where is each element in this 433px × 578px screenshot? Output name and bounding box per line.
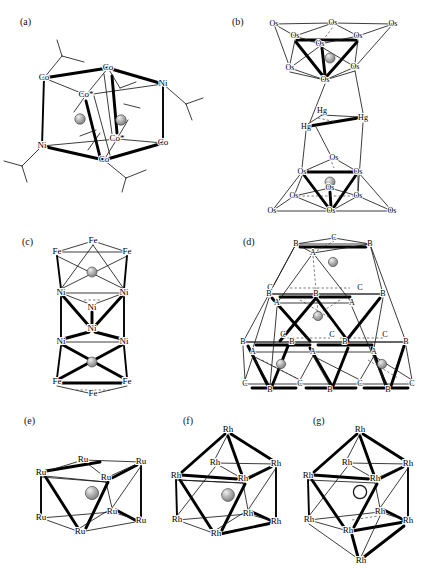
atom-label-b-13: Os	[298, 167, 307, 176]
atom-label-f-2: Rh	[271, 458, 282, 468]
atom-label-g-6: Rh	[304, 514, 315, 524]
atom-label-a-0: Co	[39, 72, 50, 82]
atom-label-a-1: Co	[103, 62, 114, 72]
atom-label-b-6: Os	[286, 63, 295, 72]
atom-label-d-18: A	[250, 347, 256, 356]
atom-label-b-14: Os	[354, 167, 363, 176]
atom-label-d-19: A	[310, 347, 316, 356]
atom-label-d-21: C	[242, 379, 247, 388]
atom-label-d-0: C	[331, 233, 336, 242]
atom-label-e-4: Ru	[107, 506, 118, 516]
atom-label-d-1: B	[293, 239, 298, 248]
atom-label-a-7: Co*	[109, 133, 125, 143]
atom-label-a-6: Co*	[78, 89, 94, 99]
atom-label-b-20: Os	[388, 206, 397, 215]
atom-label-b-15: Os	[326, 183, 335, 192]
interstitial-atom-a-1	[116, 115, 126, 125]
atom-label-g-7: Rh	[403, 515, 414, 525]
panel-c-bonds	[57, 241, 127, 394]
atom-label-c-4: Ni	[120, 287, 129, 297]
atom-label-f-3: Rh	[171, 470, 182, 480]
atom-label-e-7: Ru	[75, 526, 86, 536]
interstitial-atom-b-0	[325, 53, 335, 63]
atom-label-c-8: Ni	[120, 336, 129, 346]
panel-f-spheres	[222, 489, 235, 502]
atom-label-b-16: Os	[290, 191, 299, 200]
atom-label-d-16: B	[342, 337, 347, 346]
atom-label-e-2: Ru	[36, 467, 47, 477]
interstitial-atom-f-0	[222, 489, 235, 502]
atom-label-d-27: B	[385, 385, 390, 394]
atom-label-g-8: Rh	[343, 525, 354, 535]
atom-label-d-24: C	[409, 379, 414, 388]
atom-label-g-4: Rh	[370, 473, 381, 483]
atom-label-e-0: Ru	[78, 454, 89, 464]
atom-label-f-1: Rh	[210, 457, 221, 467]
interstitial-atom-e-0	[85, 486, 98, 499]
atom-label-c-1: Fe	[53, 246, 62, 256]
atom-label-d-20: A	[371, 347, 377, 356]
interstitial-atom-c-0	[87, 267, 97, 277]
atom-label-c-10: Fe	[123, 376, 132, 386]
atom-label-f-8: Rh	[211, 528, 222, 538]
atom-label-d-14: B	[240, 337, 245, 346]
panel-b-labels: OsOsOsOsOsOsOsOsOsHgHgHgOsOsOsOsOsOsOsOs…	[268, 18, 398, 215]
atom-label-d-3: A	[310, 248, 316, 257]
panel-f-bonds	[176, 434, 276, 534]
atom-label-b-7: Os	[351, 62, 360, 71]
atom-label-a-4: Co	[99, 154, 110, 164]
atom-label-d-13: C	[382, 330, 387, 339]
atom-label-g-1: Rh	[342, 457, 353, 467]
panel-g-labels: RhRhRhRhRhRhRhRhRhRh	[303, 424, 414, 565]
atom-label-c-6: Ni	[88, 323, 97, 333]
atom-label-b-19: Os	[327, 206, 336, 215]
interstitial-atom-d-1	[313, 311, 322, 320]
atom-label-c-0: Fe	[89, 235, 98, 245]
atom-label-c-11: Fe	[89, 388, 98, 398]
interstitial-atom-g-0	[353, 485, 366, 498]
atom-label-c-5: Ni	[88, 302, 97, 312]
atom-label-e-3: Ru	[101, 472, 112, 482]
atom-label-d-23: C	[357, 379, 362, 388]
atom-label-d-6: B	[266, 289, 271, 298]
atom-label-b-10: Hg	[301, 122, 311, 131]
atom-label-b-18: Os	[268, 206, 277, 215]
panel-tag-d: (d)	[243, 236, 255, 247]
atom-label-g-0: Rh	[355, 424, 366, 434]
atom-label-d-5: C	[357, 283, 362, 292]
interstitial-atom-d-0	[328, 257, 337, 266]
panel-tag-e: (e)	[24, 415, 35, 426]
atom-label-f-7: Rh	[271, 516, 282, 526]
atom-label-b-9: Hg	[317, 106, 327, 115]
atom-label-f-0: Rh	[223, 424, 234, 434]
panel-tag-c: (c)	[22, 236, 33, 247]
atom-label-b-17: Os	[354, 191, 363, 200]
panel-tag-b: (b)	[232, 16, 244, 27]
atom-label-d-12: C	[329, 330, 334, 339]
interstitial-atom-a-0	[75, 114, 85, 124]
atom-label-f-5: Rh	[243, 508, 254, 518]
panel-tag-f: (f)	[183, 415, 193, 426]
atom-label-e-1: Ru	[136, 456, 147, 466]
atom-label-b-12: Os	[330, 153, 339, 162]
panel-tag-g: (g)	[313, 415, 325, 426]
atom-label-f-4: Rh	[238, 473, 249, 483]
atom-label-d-15: B	[289, 337, 294, 346]
interstitial-atom-c-1	[87, 357, 97, 367]
cluster-drawing-canvas: CoCoNiNiCoCoCo*Co*	[0, 0, 433, 578]
atom-label-b-8: Os	[321, 75, 330, 84]
atom-label-a-3: Ni	[38, 140, 47, 150]
interstitial-atom-d-3	[377, 359, 386, 368]
atom-label-g-5: Rh	[375, 506, 386, 516]
atom-label-e-5: Ru	[36, 512, 47, 522]
atom-label-d-10: A	[349, 298, 355, 307]
atom-label-g-3: Rh	[303, 470, 314, 480]
panel-g-spheres	[353, 485, 366, 498]
atom-label-b-2: Os	[389, 19, 398, 28]
atom-label-c-7: Ni	[57, 336, 66, 346]
atom-label-c-3: Ni	[57, 287, 66, 297]
atom-label-d-8: B	[380, 289, 385, 298]
atom-label-a-5: Co	[158, 137, 169, 147]
atom-label-d-25: B	[267, 385, 272, 394]
atom-label-b-3: Os	[291, 31, 300, 40]
